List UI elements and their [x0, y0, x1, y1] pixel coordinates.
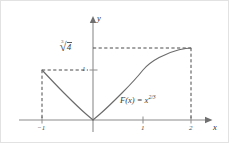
x-tick-label-minus-1: −1	[37, 125, 45, 132]
curve-right-branch	[93, 48, 191, 120]
radicand-value: 4	[67, 42, 73, 52]
function-equation-label: F(x) = x2/3	[120, 95, 156, 104]
radical-index: 3	[61, 39, 64, 44]
x-tick-label-2: 2	[189, 125, 193, 132]
y-axis	[90, 16, 96, 132]
function-equation-base: F(x) = x	[120, 95, 148, 105]
y-axis-label: y	[97, 14, 101, 23]
y-tick-label-1: 1	[82, 66, 86, 73]
x-axis-label: x	[213, 123, 217, 132]
function-graph-figure: y x −1 1 2 1 3 √ 4 F(x) = x2/3	[0, 0, 229, 143]
plot-canvas	[1, 1, 229, 143]
x-axis	[19, 117, 213, 123]
curve-left-branch	[42, 70, 93, 120]
x-tick-label-1: 1	[141, 125, 145, 132]
cube-root-of-four-label: 3 √ 4	[58, 39, 73, 53]
function-equation-exponent: 2/3	[148, 94, 155, 100]
